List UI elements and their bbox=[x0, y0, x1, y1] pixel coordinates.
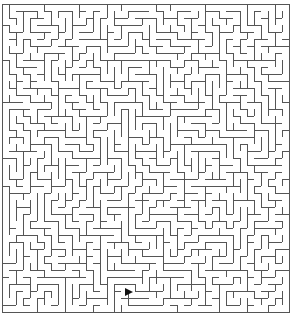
arrow-pointer-icon bbox=[124, 287, 134, 297]
maze-walls bbox=[2, 4, 289, 312]
maze-grid[interactable] bbox=[0, 0, 295, 317]
